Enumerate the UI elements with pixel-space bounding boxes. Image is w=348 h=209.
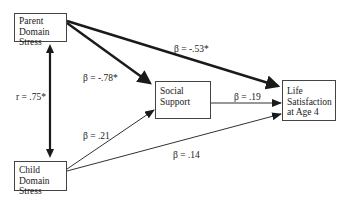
node-label-line: Life [287,86,331,97]
node-life-satisfaction: Life Satisfaction at Age 4 [282,80,336,121]
node-label-line: Social [160,86,206,97]
child-to-support-arrow [67,110,154,169]
node-label-line: Domain [19,176,62,187]
label-parent-child-correlation: r = .75* [16,92,46,102]
label-support-to-life: β = .19 [234,92,261,102]
label-parent-to-support: β = -.78* [83,73,118,83]
node-parent-domain-stress: Parent Domain Stress [14,13,67,42]
node-label-line: Support [160,97,206,108]
node-label-line: Stress [19,37,62,48]
parent-child-correlation-arrow [46,44,54,158]
node-label-line: Stress [19,186,62,197]
node-label-line: Domain [19,27,62,38]
node-label-line: Child [19,165,62,176]
label-parent-to-life: β = -.53* [174,44,209,54]
node-label-line: Satisfaction [287,97,331,108]
child-to-life-arrow [67,114,281,171]
node-social-support: Social Support [155,81,211,119]
label-child-to-support: β = .21 [83,131,110,141]
node-label-line: Parent [19,16,62,27]
node-label-line: at Age 4 [287,107,331,118]
node-child-domain-stress: Child Domain Stress [14,161,67,191]
label-child-to-life: β = .14 [173,150,200,160]
